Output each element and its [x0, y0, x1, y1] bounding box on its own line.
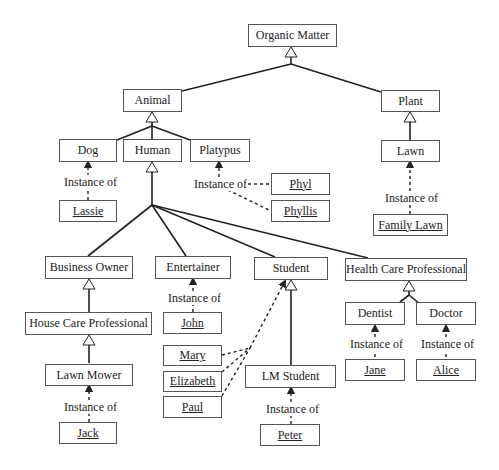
instance-phyl: Phyl	[271, 173, 330, 195]
class-house-care-professional: House Care Professional	[25, 312, 152, 335]
instance-of-label-entertainer: Instance of	[167, 291, 222, 305]
instance-name: Peter	[278, 428, 303, 443]
instance-name: Paul	[182, 400, 203, 415]
class-diagram: Organic Matter Animal Plant Dog Human Pl…	[0, 0, 499, 470]
class-business-owner: Business Owner	[45, 256, 133, 279]
instance-of-label-lawn-mower: Instance of	[63, 400, 118, 414]
instance-name: Family Lawn	[378, 218, 442, 233]
class-name: LM Student	[262, 369, 320, 384]
class-student: Student	[254, 257, 328, 280]
class-name: Animal	[135, 93, 171, 108]
class-human: Human	[123, 139, 182, 162]
instance-mary: Mary	[163, 345, 222, 366]
class-name: Lawn Mower	[57, 368, 122, 383]
instance-john: John	[163, 312, 222, 334]
instance-of-label-lm-student: Instance of	[265, 402, 320, 416]
instance-phyllis: Phyllis	[271, 200, 330, 222]
class-name: Entertainer	[166, 260, 219, 275]
class-name: Student	[273, 261, 310, 276]
instance-name: John	[181, 316, 204, 331]
instance-name: Alice	[433, 363, 459, 378]
class-health-care-professional: Health Care Professional	[345, 258, 467, 281]
class-name: Dentist	[358, 306, 393, 321]
class-dentist: Dentist	[345, 302, 405, 325]
class-name: Health Care Professional	[346, 262, 466, 277]
instance-of-label-dog: Instance of	[63, 175, 118, 189]
instance-name: Jack	[77, 426, 98, 441]
class-platypus: Platypus	[190, 139, 250, 162]
instance-name: Jane	[364, 363, 385, 378]
instance-lassie: Lassie	[59, 200, 117, 222]
class-name: Dog	[78, 143, 99, 158]
instance-of-label-dentist: Instance of	[349, 337, 404, 351]
class-name: Doctor	[429, 306, 462, 321]
instance-elizabeth: Elizabeth	[163, 371, 222, 392]
instance-name: Lassie	[73, 204, 104, 219]
class-name: House Care Professional	[29, 316, 148, 331]
instance-alice: Alice	[416, 359, 476, 381]
class-organic-matter: Organic Matter	[248, 24, 337, 47]
class-entertainer: Entertainer	[155, 256, 231, 279]
class-lawn: Lawn	[381, 140, 440, 162]
instance-of-label-platypus: Instance of	[193, 177, 248, 191]
class-animal: Animal	[123, 89, 182, 112]
class-lm-student: LM Student	[245, 365, 336, 388]
instance-jane: Jane	[345, 359, 405, 381]
instance-of-label-doctor: Instance of	[420, 337, 475, 351]
instance-name: Mary	[180, 348, 206, 363]
instance-peter: Peter	[260, 424, 320, 446]
class-lawn-mower: Lawn Mower	[45, 364, 133, 386]
instance-name: Phyl	[289, 177, 311, 192]
class-name: Lawn	[397, 144, 424, 159]
instance-name: Elizabeth	[170, 374, 215, 389]
instance-paul: Paul	[163, 396, 222, 418]
class-name: Human	[135, 143, 170, 158]
class-name: Platypus	[199, 143, 240, 158]
class-name: Organic Matter	[256, 28, 329, 43]
instance-family-lawn: Family Lawn	[373, 214, 448, 236]
class-name: Plant	[398, 94, 423, 109]
class-name: Business Owner	[50, 260, 128, 275]
class-dog: Dog	[59, 139, 117, 162]
instance-of-label-lawn: Instance of	[384, 191, 439, 205]
class-doctor: Doctor	[416, 302, 476, 325]
class-plant: Plant	[381, 90, 440, 112]
instance-name: Phyllis	[284, 204, 317, 219]
instance-jack: Jack	[59, 422, 117, 444]
